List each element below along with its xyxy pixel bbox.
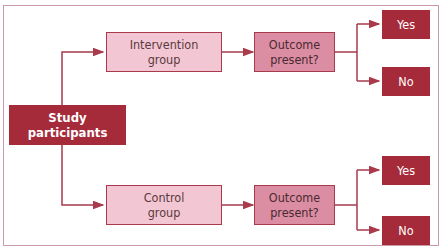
intervention-outcome-line1: Outcome	[269, 37, 320, 52]
control-outcome-box: Outcome present?	[254, 185, 335, 225]
control-outcome-line2: present?	[270, 205, 319, 220]
control-group-line2: group	[148, 205, 181, 220]
study-participants-line1: Study	[48, 110, 86, 125]
control-group-box: Control group	[106, 185, 222, 225]
intervention-group-line1: Intervention	[130, 37, 199, 52]
control-group-line1: Control	[144, 190, 185, 205]
intervention-yes-box: Yes	[382, 10, 430, 39]
intervention-group-box: Intervention group	[106, 32, 222, 72]
control-outcome-line1: Outcome	[269, 190, 320, 205]
intervention-yes-label: Yes	[397, 17, 415, 32]
intervention-no-box: No	[382, 67, 430, 96]
control-yes-label: Yes	[397, 163, 415, 178]
study-participants-box: Study participants	[9, 105, 126, 145]
intervention-outcome-line2: present?	[270, 52, 319, 67]
control-no-box: No	[382, 216, 430, 245]
control-no-label: No	[398, 223, 413, 238]
intervention-no-label: No	[398, 74, 413, 89]
study-participants-line2: participants	[28, 125, 108, 140]
intervention-group-line2: group	[148, 52, 181, 67]
intervention-outcome-box: Outcome present?	[254, 32, 335, 72]
control-yes-box: Yes	[382, 156, 430, 185]
